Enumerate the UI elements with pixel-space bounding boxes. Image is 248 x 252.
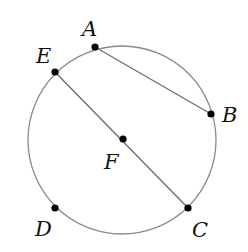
point-d	[51, 204, 58, 211]
point-b	[207, 110, 214, 117]
segment-ab	[95, 47, 211, 114]
point-e	[51, 68, 58, 75]
label-e: E	[35, 44, 51, 68]
point-labels: ABCDEF	[34, 17, 237, 242]
point-f	[119, 135, 126, 142]
label-f: F	[103, 150, 120, 174]
point-c	[184, 204, 191, 211]
label-b: B	[221, 103, 237, 127]
point-a	[91, 43, 98, 50]
label-d: D	[34, 217, 52, 241]
label-c: C	[192, 218, 208, 242]
segments	[55, 47, 211, 208]
label-a: A	[80, 17, 97, 41]
circle-diagram: ABCDEF	[0, 0, 248, 252]
